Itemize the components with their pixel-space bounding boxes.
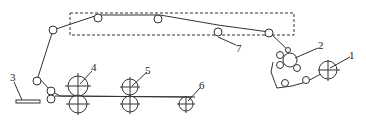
guide-roller [94, 14, 102, 22]
output-plate [16, 100, 40, 103]
label-5: 5 [145, 65, 151, 76]
roller-6 [177, 96, 195, 113]
dashed-enclosure [70, 13, 294, 35]
process-diagram [0, 0, 366, 125]
label-7: 7 [236, 43, 242, 54]
guide-roller [214, 28, 222, 36]
guide-roller [49, 26, 57, 34]
nip-roller-pair-5 [120, 77, 140, 114]
leader-line-7 [218, 37, 236, 45]
label-2: 2 [318, 40, 324, 51]
label-3: 3 [10, 72, 16, 83]
guide-roller [154, 15, 162, 23]
label-1: 1 [349, 50, 355, 61]
leader-line-2 [295, 48, 318, 58]
guide-roller [265, 29, 273, 37]
guide-roller [33, 77, 41, 85]
leader-line-3 [14, 82, 22, 100]
unwind-roll-1 [318, 60, 340, 81]
label-6: 6 [199, 80, 205, 91]
label-4: 4 [91, 62, 97, 73]
nip-roller-pair-4 [65, 73, 91, 115]
guide-roller [47, 87, 55, 95]
guide-roller [47, 95, 55, 103]
